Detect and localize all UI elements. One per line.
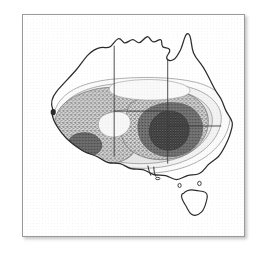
figure-container: Grayscale contour / density map of Austr… [0, 0, 262, 263]
density-bands-group [54, 77, 230, 173]
figure-frame [22, 14, 245, 237]
interior-gap-north [109, 80, 190, 101]
west-coast-marker-icon [51, 109, 56, 115]
dark-core-southeast [149, 111, 189, 150]
australia-density-map [23, 15, 244, 236]
island-marker-west [178, 183, 181, 187]
kangaroo-island-icon [156, 177, 160, 179]
island-marker-east [198, 181, 202, 185]
tasmania-outline [182, 190, 208, 215]
